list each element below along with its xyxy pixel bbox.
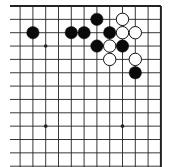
black-stone [129,67,141,79]
white-stone [116,13,128,25]
black-stone [27,27,39,39]
black-stone [91,40,103,52]
white-stone [104,53,116,65]
white-stone [116,27,128,39]
star-point [121,124,125,128]
star-point [44,124,48,128]
go-board [0,0,171,167]
white-stone [129,27,141,39]
black-stone [91,13,103,25]
white-stone [129,53,141,65]
black-stone [65,27,77,39]
black-stone [104,27,116,39]
white-stone [104,40,116,52]
black-stone [116,40,128,52]
black-stone [78,27,90,39]
star-point [44,44,48,48]
